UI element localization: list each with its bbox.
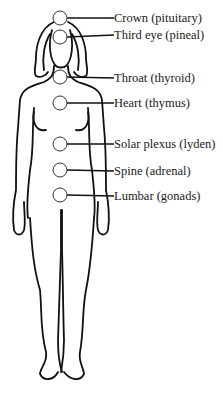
label-crown: Crown (pituitary) (114, 11, 202, 25)
chakra-point-lumbar: Lumbar (gonads) (53, 188, 200, 203)
circle-marker-icon (53, 96, 67, 110)
circle-marker-icon (53, 163, 67, 177)
circle-marker-icon (53, 188, 67, 202)
circle-marker-icon (53, 30, 67, 44)
chakra-point-crown: Crown (pituitary) (53, 11, 202, 25)
chakra-point-heart: Heart (thymus) (53, 96, 190, 110)
chakra-point-solar-plexus: Solar plexus (lyden) (53, 137, 215, 151)
circle-marker-icon (53, 11, 67, 25)
label-lumbar: Lumbar (gonads) (114, 189, 200, 203)
label-heart: Heart (thymus) (114, 96, 190, 110)
label-spine: Spine (adrenal) (114, 164, 191, 178)
circle-marker-icon (53, 70, 67, 84)
circle-marker-icon (53, 137, 67, 151)
label-third-eye: Third eye (pineal) (114, 28, 204, 42)
chakra-point-spine: Spine (adrenal) (53, 163, 191, 178)
label-throat: Throat (thyroid) (114, 71, 195, 85)
chakra-body-diagram: Crown (pituitary) Third eye (pineal) Thr… (0, 0, 223, 398)
label-solar-plexus: Solar plexus (lyden) (114, 137, 215, 151)
